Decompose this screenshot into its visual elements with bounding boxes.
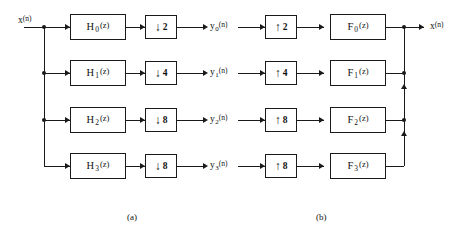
analysis-filter-h2[interactable]: H2(z) (70, 107, 126, 133)
analysis-split-bus (44, 27, 45, 166)
sum-node-row2 (402, 71, 406, 75)
interpolator-0[interactable]: ↑2 (265, 15, 297, 39)
synthesis-filter-f0[interactable]: F0(z) (330, 14, 386, 40)
synthesis-filter-f2-label: F2(z) (347, 113, 368, 127)
analysis-filter-h1-label: H1(z) (87, 66, 110, 80)
arrow-sum-up-row3 (401, 131, 407, 136)
input-wire (24, 27, 44, 28)
synthesis-filter-f1[interactable]: F1(z) (330, 60, 386, 86)
decimator-to-y2-wire (177, 120, 204, 121)
down-arrow-icon: ↓ (155, 160, 161, 172)
caption-synthesis: (b) (316, 213, 327, 222)
analysis-filter-h1[interactable]: H1(z) (70, 60, 126, 86)
synthesis-filter-f2[interactable]: F2(z) (330, 107, 386, 133)
interpolator-2[interactable]: ↑8 (265, 108, 297, 132)
filter-bank-diagram: H0(z) H1(z) H2(z) H3(z) ↓2 ↓4 ↓8 ↓8 (0, 0, 454, 238)
interpolator-2-label: ↑8 (275, 114, 288, 126)
analysis-filter-h2-label: H2(z) (87, 113, 110, 127)
arrow-into-y2 (203, 117, 208, 123)
arrow-into-y3 (203, 163, 208, 169)
analysis-filter-h3-label: H3(z) (87, 159, 110, 173)
split-node-row1 (42, 25, 46, 29)
arrow-into-f3 (319, 163, 324, 169)
down-arrow-icon: ↓ (155, 114, 161, 126)
decimator-3[interactable]: ↓8 (145, 154, 177, 178)
interpolator-1-label: ↑4 (275, 67, 288, 79)
input-signal-label: x(n) (18, 15, 32, 25)
decimator-1[interactable]: ↓4 (145, 61, 177, 85)
decimator-2[interactable]: ↓8 (145, 108, 177, 132)
up-arrow-icon: ↑ (275, 21, 281, 33)
arrow-output (419, 24, 424, 30)
arrow-into-f1 (319, 70, 324, 76)
synthesis-sum-bus (404, 27, 405, 166)
decimator-3-label: ↓8 (155, 160, 168, 172)
arrow-sum-up-row2 (401, 84, 407, 89)
synthesis-filter-f0-label: F0(z) (347, 20, 368, 34)
up-arrow-icon: ↑ (275, 160, 281, 172)
interpolator-0-label: ↑2 (275, 21, 288, 33)
down-arrow-icon: ↓ (155, 67, 161, 79)
subband-signal-y3: y3(n) (210, 160, 228, 172)
f3-to-sum-wire (386, 166, 404, 167)
arrow-into-f2 (319, 117, 324, 123)
decimator-0[interactable]: ↓2 (145, 15, 177, 39)
decimator-to-y3-wire (177, 166, 204, 167)
decimator-1-label: ↓4 (155, 67, 168, 79)
synthesis-filter-f1-label: F1(z) (347, 66, 368, 80)
decimator-2-label: ↓8 (155, 114, 168, 126)
split-node-row3 (42, 118, 46, 122)
synthesis-filter-f3[interactable]: F3(z) (330, 153, 386, 179)
up-arrow-icon: ↑ (275, 67, 281, 79)
decimator-to-y0-wire (177, 27, 204, 28)
interpolator-1[interactable]: ↑4 (265, 61, 297, 85)
down-arrow-icon: ↓ (155, 21, 161, 33)
arrow-into-y0 (203, 24, 208, 30)
interpolator-3[interactable]: ↑8 (265, 154, 297, 178)
analysis-filter-h0-label: H0(z) (87, 20, 110, 34)
synthesis-filter-f3-label: F3(z) (347, 159, 368, 173)
caption-analysis: (a) (127, 213, 137, 222)
sum-node-row3 (402, 118, 406, 122)
interpolator-3-label: ↑8 (275, 160, 288, 172)
up-arrow-icon: ↑ (275, 114, 281, 126)
sum-node-row1 (402, 25, 406, 29)
analysis-filter-h3[interactable]: H3(z) (70, 153, 126, 179)
analysis-filter-h0[interactable]: H0(z) (70, 14, 126, 40)
arrow-into-y1 (203, 70, 208, 76)
split-node-row2 (42, 71, 46, 75)
arrow-into-f0 (319, 24, 324, 30)
subband-signal-y2: y2(n) (210, 114, 228, 126)
subband-signal-y0: y0(n) (210, 21, 228, 33)
subband-signal-y1: y1(n) (210, 67, 228, 79)
decimator-to-y1-wire (177, 73, 204, 74)
decimator-0-label: ↓2 (155, 21, 168, 33)
output-signal-label: x(n) (430, 21, 444, 31)
